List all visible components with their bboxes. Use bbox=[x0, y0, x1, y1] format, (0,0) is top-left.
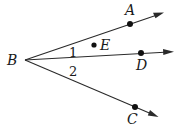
arrowhead-c-icon bbox=[148, 110, 159, 117]
point-d bbox=[138, 50, 144, 56]
point-c bbox=[132, 104, 138, 110]
label-a: A bbox=[123, 2, 135, 18]
angle-diagram: B A D C E 1 2 bbox=[0, 0, 178, 130]
point-e bbox=[91, 42, 96, 47]
angle-label-1: 1 bbox=[69, 45, 77, 60]
label-d: D bbox=[135, 57, 147, 73]
label-e: E bbox=[99, 37, 110, 53]
angle-label-2: 2 bbox=[69, 64, 77, 79]
label-b: B bbox=[6, 52, 17, 68]
point-a bbox=[127, 21, 133, 27]
arrowhead-a-icon bbox=[153, 13, 164, 19]
arrowhead-d-icon bbox=[163, 49, 174, 55]
label-c: C bbox=[127, 111, 138, 127]
diagram-canvas: B A D C E 1 2 bbox=[0, 0, 178, 130]
